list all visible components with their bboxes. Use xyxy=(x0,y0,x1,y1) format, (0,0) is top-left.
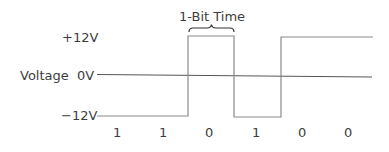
bit-time-brace-icon xyxy=(189,25,234,33)
waveform-graphic xyxy=(0,0,389,152)
